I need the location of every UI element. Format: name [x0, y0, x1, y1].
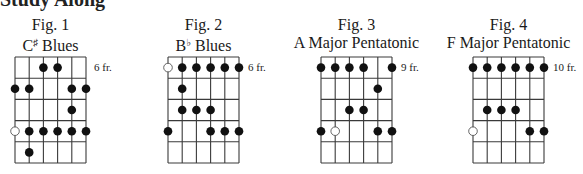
figure-title: Fig. 2 — [129, 16, 279, 34]
fretboard-diagram — [162, 56, 245, 164]
note-dot-icon — [221, 127, 230, 136]
note-dot-icon — [11, 85, 20, 94]
note-dot-icon — [68, 106, 77, 115]
note-dot-icon — [235, 127, 244, 136]
scale-root: F — [447, 34, 456, 51]
note-dot-icon — [540, 127, 549, 136]
note-dot-icon — [497, 106, 506, 115]
note-dot-icon — [388, 127, 397, 136]
note-dot-icon — [511, 106, 520, 115]
note-dot-icon — [25, 148, 34, 157]
scale-root: C — [22, 37, 33, 54]
scale-root: B — [176, 37, 187, 54]
fret-position-label: 10 fr. — [553, 61, 576, 73]
scale-type: Major Pentatonic — [456, 34, 571, 51]
note-dot-icon — [374, 85, 383, 94]
scale-name: C♯ Blues — [0, 34, 126, 55]
scale-root: A — [294, 34, 305, 51]
note-dot-icon — [359, 106, 368, 115]
scale-type: Blues — [191, 37, 231, 54]
note-dot-icon — [206, 106, 215, 115]
fretboard-diagram — [9, 56, 92, 164]
note-dot-icon — [68, 127, 77, 136]
note-dot-icon — [483, 63, 492, 72]
root-note-open-dot-icon — [164, 63, 173, 72]
note-dot-icon — [331, 63, 340, 72]
note-dot-icon — [511, 63, 520, 72]
note-dot-icon — [345, 63, 354, 72]
note-dot-icon — [206, 63, 215, 72]
note-dot-icon — [192, 106, 201, 115]
fretboard-diagram — [315, 56, 398, 164]
note-dot-icon — [178, 85, 187, 94]
note-dot-icon — [359, 63, 368, 72]
note-dot-icon — [68, 85, 77, 94]
note-dot-icon — [39, 127, 48, 136]
figure-title: Fig. 1 — [0, 16, 126, 34]
note-dot-icon — [53, 127, 62, 136]
scale-type: Blues — [38, 37, 78, 54]
note-dot-icon — [178, 106, 187, 115]
note-dot-icon — [388, 63, 397, 72]
fret-position-label: 9 fr. — [401, 61, 419, 73]
note-dot-icon — [374, 127, 383, 136]
scale-type: Major Pentatonic — [305, 34, 420, 51]
note-dot-icon — [345, 106, 354, 115]
note-dot-icon — [469, 63, 478, 72]
note-dot-icon — [497, 63, 506, 72]
note-dot-icon — [53, 63, 62, 72]
note-dot-icon — [82, 127, 91, 136]
fret-position-label: 6 fr. — [94, 61, 112, 73]
note-dot-icon — [25, 127, 34, 136]
root-note-open-dot-icon — [469, 127, 478, 136]
note-dot-icon — [317, 63, 326, 72]
note-dot-icon — [317, 127, 326, 136]
root-note-open-dot-icon — [11, 127, 20, 136]
note-dot-icon — [206, 127, 215, 136]
note-dot-icon — [526, 127, 535, 136]
figure-title: Fig. 3 — [282, 16, 432, 34]
fretboard-diagram — [467, 56, 550, 164]
note-dot-icon — [235, 63, 244, 72]
note-dot-icon — [82, 85, 91, 94]
fret-position-label: 6 fr. — [248, 61, 266, 73]
note-dot-icon — [25, 85, 34, 94]
note-dot-icon — [164, 127, 173, 136]
note-dot-icon — [540, 63, 549, 72]
note-dot-icon — [483, 106, 492, 115]
figure-title: Fig. 4 — [434, 16, 583, 34]
note-dot-icon — [526, 63, 535, 72]
note-dot-icon — [39, 63, 48, 72]
scale-name: B♭ Blues — [129, 34, 279, 55]
scale-name: A Major Pentatonic — [282, 34, 432, 52]
root-note-open-dot-icon — [331, 127, 340, 136]
note-dot-icon — [221, 63, 230, 72]
scale-name: F Major Pentatonic — [434, 34, 583, 52]
note-dot-icon — [178, 63, 187, 72]
note-dot-icon — [192, 63, 201, 72]
